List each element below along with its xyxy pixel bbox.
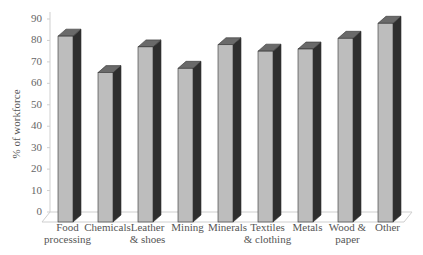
bar-wood-paper — [338, 31, 361, 222]
y-tick-label: 10 — [18, 184, 42, 196]
bar-other — [378, 16, 401, 222]
bar-minerals — [218, 38, 241, 222]
y-tick-label: 60 — [18, 76, 42, 88]
y-tick-label: 20 — [18, 162, 42, 174]
bar-metals — [298, 42, 321, 222]
chart-canvas — [0, 0, 423, 255]
y-tick-label: 30 — [18, 141, 42, 153]
y-tick-label: 40 — [18, 119, 42, 131]
y-tick-label: 0 — [18, 205, 42, 217]
y-tick-label: 50 — [18, 98, 42, 110]
bar-chart: % of workforce 0102030405060708090 Foodp… — [0, 0, 423, 255]
bar-textiles-clothing — [258, 44, 281, 222]
bar-chemicals — [98, 66, 121, 222]
y-tick-label: 70 — [18, 55, 42, 67]
bar-leather-shoes — [138, 40, 161, 222]
y-tick-label: 80 — [18, 33, 42, 45]
x-category-label: Other — [356, 221, 420, 245]
bar-mining — [178, 61, 201, 222]
bar-food-processing — [58, 29, 81, 222]
y-tick-label: 90 — [18, 12, 42, 24]
